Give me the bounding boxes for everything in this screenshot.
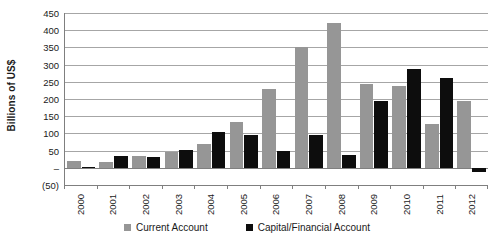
- y-axis-title: Billions of US$: [0, 0, 22, 190]
- bar-group: [390, 13, 423, 185]
- y-axis-tick-labels: 45040035030025020015010050–(50): [22, 13, 62, 185]
- x-tick-label-text: 2002: [140, 194, 151, 215]
- x-tick-mark: [358, 185, 359, 189]
- x-tick-mark: [129, 185, 130, 189]
- x-tick-label-text: 2007: [303, 194, 314, 215]
- bar: [327, 23, 341, 167]
- x-axis-tick-marks: [64, 185, 488, 189]
- bar-chart: Billions of US$ 450400350300250200150100…: [0, 0, 494, 244]
- bar: [67, 161, 81, 168]
- bar: [99, 162, 113, 168]
- y-tick-label-400: 400: [43, 25, 59, 36]
- bar-group: [65, 13, 98, 185]
- y-axis-title-text: Billions of US$: [6, 59, 17, 131]
- x-tick-label-text: 2011: [434, 194, 445, 214]
- bar: [472, 168, 486, 172]
- plot-area: [64, 13, 488, 185]
- x-tick-label-text: 2010: [401, 194, 412, 215]
- bar-group: [163, 13, 196, 185]
- y-tick-label-200: 200: [43, 94, 59, 105]
- bar: [457, 101, 471, 167]
- y-tick-label-150: 150: [43, 111, 59, 122]
- bar: [82, 167, 96, 168]
- x-tick-label-2007: 2007: [294, 190, 324, 212]
- bar-group: [98, 13, 131, 185]
- x-tick-mark: [64, 185, 65, 189]
- bar: [440, 78, 454, 167]
- x-tick-label-2000: 2000: [65, 190, 95, 212]
- y-tick-label-350: 350: [43, 42, 59, 53]
- x-tick-label-text: 2000: [75, 194, 86, 215]
- bar: [309, 135, 323, 168]
- x-tick-label-2002: 2002: [131, 190, 161, 212]
- y-tick-label-250: 250: [43, 76, 59, 87]
- bar: [360, 84, 374, 168]
- bar-group: [228, 13, 261, 185]
- bar-group: [358, 13, 391, 185]
- bar-group: [325, 13, 358, 185]
- bar: [262, 89, 276, 168]
- legend-swatch-icon: [124, 224, 131, 231]
- bar: [230, 122, 244, 167]
- bar-group: [260, 13, 293, 185]
- x-tick-label-2012: 2012: [457, 190, 487, 212]
- y-tick-label-450: 450: [43, 8, 59, 19]
- bar: [212, 132, 226, 168]
- x-tick-mark: [423, 185, 424, 189]
- x-tick-label-2006: 2006: [261, 190, 291, 212]
- x-tick-mark: [292, 185, 293, 189]
- legend-label: Current Account: [136, 222, 208, 233]
- legend-label: Capital/Financial Account: [258, 222, 370, 233]
- bar: [392, 86, 406, 168]
- bar: [374, 101, 388, 168]
- legend-item-1[interactable]: Capital/Financial Account: [246, 222, 370, 233]
- bar-group: [195, 13, 228, 185]
- x-tick-mark: [455, 185, 456, 189]
- bar: [132, 156, 146, 168]
- x-tick-mark: [227, 185, 228, 189]
- x-tick-mark: [487, 185, 488, 189]
- x-tick-label-2003: 2003: [163, 190, 193, 212]
- x-tick-label-text: 2009: [368, 194, 379, 215]
- bar-group: [423, 13, 456, 185]
- x-tick-label-2010: 2010: [391, 190, 421, 212]
- x-tick-label-text: 2006: [270, 194, 281, 215]
- x-tick-mark: [162, 185, 163, 189]
- y-tick-label--50: (50): [42, 180, 59, 191]
- x-tick-label-2001: 2001: [98, 190, 128, 212]
- legend: Current AccountCapital/Financial Account: [0, 222, 494, 233]
- bar-group: [455, 13, 488, 185]
- x-tick-mark: [260, 185, 261, 189]
- bar: [407, 69, 421, 168]
- x-tick-label-2009: 2009: [359, 190, 389, 212]
- x-tick-label-2011: 2011: [424, 190, 454, 212]
- bar-group: [130, 13, 163, 185]
- bar: [197, 144, 211, 167]
- x-tick-label-text: 2003: [173, 194, 184, 215]
- y-tick-label-300: 300: [43, 59, 59, 70]
- y-tick-label-50: 50: [48, 145, 59, 156]
- y-tick-label-0: –: [54, 162, 59, 173]
- bar: [244, 135, 258, 168]
- x-tick-mark: [325, 185, 326, 189]
- bar: [147, 157, 161, 168]
- bar: [277, 151, 291, 168]
- bar: [165, 152, 179, 167]
- x-tick-mark: [194, 185, 195, 189]
- x-tick-label-2005: 2005: [228, 190, 258, 212]
- x-tick-label-text: 2001: [107, 194, 118, 215]
- x-tick-mark: [97, 185, 98, 189]
- x-tick-mark: [390, 185, 391, 189]
- bar: [425, 124, 439, 168]
- x-tick-label-text: 2008: [336, 194, 347, 215]
- legend-item-0[interactable]: Current Account: [124, 222, 208, 233]
- x-tick-label-2008: 2008: [326, 190, 356, 212]
- x-tick-label-text: 2012: [466, 194, 477, 215]
- legend-swatch-icon: [246, 224, 253, 231]
- x-tick-label-text: 2005: [238, 194, 249, 215]
- y-tick-label-100: 100: [43, 128, 59, 139]
- bar: [179, 150, 193, 168]
- bars-layer: [65, 13, 488, 185]
- bar: [114, 156, 128, 168]
- bar-group: [293, 13, 326, 185]
